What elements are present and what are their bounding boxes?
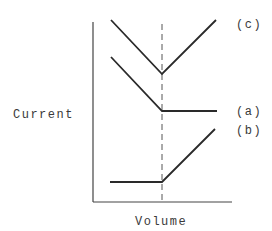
curve-b-label: (b) <box>236 124 262 138</box>
y-axis-label: Current <box>13 108 74 122</box>
x-axis-label: Volume <box>135 215 187 229</box>
titration-diagram: (c) (a) (b) Current Volume <box>0 0 272 231</box>
curve-a-label: (a) <box>236 105 262 119</box>
curve-a <box>111 57 217 111</box>
curve-c-label: (c) <box>236 18 262 32</box>
curve-c <box>111 20 216 74</box>
